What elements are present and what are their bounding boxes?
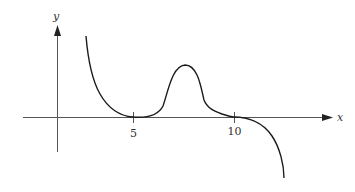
- x-axis-arrow-icon: [322, 114, 333, 121]
- x-axis-label: x: [337, 111, 344, 124]
- function-curve: [86, 36, 284, 178]
- x-tick-label-10: 10: [228, 125, 242, 138]
- y-axis: y: [52, 10, 61, 152]
- function-graph: x y 5 10: [0, 0, 355, 192]
- y-axis-arrow-icon: [54, 25, 61, 36]
- y-axis-label: y: [52, 10, 60, 23]
- x-axis: x: [23, 111, 344, 124]
- x-tick-label-5: 5: [130, 127, 137, 140]
